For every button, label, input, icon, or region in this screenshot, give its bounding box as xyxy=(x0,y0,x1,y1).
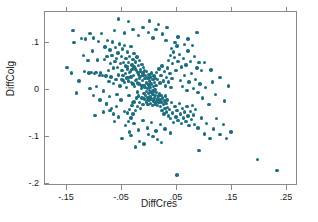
data-point xyxy=(71,29,74,32)
data-point xyxy=(197,149,200,152)
data-point xyxy=(164,84,167,87)
data-point xyxy=(160,64,163,67)
data-point xyxy=(218,133,221,136)
data-point xyxy=(136,90,139,93)
data-point xyxy=(123,31,126,34)
data-point xyxy=(170,101,173,104)
data-point xyxy=(201,96,204,99)
data-point xyxy=(173,105,176,108)
data-point xyxy=(129,134,132,137)
data-point xyxy=(113,29,116,32)
x-tick-mark xyxy=(121,185,122,190)
data-point xyxy=(170,77,173,80)
data-point xyxy=(127,120,130,123)
y-tick-mark xyxy=(44,183,49,184)
data-point xyxy=(119,98,122,101)
data-point xyxy=(139,107,142,110)
data-point xyxy=(136,81,139,84)
data-point xyxy=(147,133,150,136)
y-tick-mark xyxy=(44,42,49,43)
data-point xyxy=(227,84,230,87)
data-point xyxy=(83,70,86,73)
data-point xyxy=(209,68,212,71)
data-point xyxy=(92,36,95,39)
data-point xyxy=(103,45,106,48)
data-point xyxy=(93,114,96,117)
data-point xyxy=(150,121,153,124)
data-point xyxy=(173,41,176,44)
data-point xyxy=(191,44,194,47)
data-point xyxy=(142,142,145,145)
data-point xyxy=(154,129,157,132)
data-point xyxy=(166,66,169,69)
data-point xyxy=(191,104,194,107)
data-point xyxy=(131,28,134,31)
data-point xyxy=(196,91,199,94)
data-point xyxy=(215,117,218,120)
data-point xyxy=(218,76,221,79)
data-point xyxy=(175,109,178,112)
data-point xyxy=(140,96,143,99)
data-point xyxy=(180,122,183,125)
data-point xyxy=(161,32,164,35)
data-point xyxy=(174,69,177,72)
data-point xyxy=(179,79,182,82)
data-point xyxy=(103,58,106,61)
data-point xyxy=(109,75,112,78)
data-point xyxy=(123,81,126,84)
data-point xyxy=(127,20,130,23)
data-point xyxy=(186,114,189,117)
data-point xyxy=(113,60,116,63)
data-point xyxy=(205,122,208,125)
data-point xyxy=(181,85,184,88)
data-point xyxy=(194,108,197,111)
data-point xyxy=(115,105,118,108)
data-point xyxy=(112,82,115,85)
data-point xyxy=(115,57,118,60)
data-point xyxy=(185,89,188,92)
data-point xyxy=(187,80,190,83)
data-point xyxy=(141,119,144,122)
data-point xyxy=(212,127,215,130)
data-point xyxy=(154,28,157,31)
data-point xyxy=(163,127,166,130)
data-point xyxy=(117,73,120,76)
data-point xyxy=(169,86,172,89)
data-point xyxy=(151,36,154,39)
data-point xyxy=(175,173,178,176)
data-point xyxy=(168,72,171,75)
y-tick-label: 0 xyxy=(14,84,39,94)
data-point xyxy=(125,86,128,89)
y-tick-label: .1 xyxy=(14,37,39,47)
data-point xyxy=(116,51,119,54)
data-point xyxy=(184,120,187,123)
data-point xyxy=(178,102,181,105)
data-point xyxy=(126,50,129,53)
data-point xyxy=(195,31,198,34)
data-point xyxy=(172,50,175,53)
data-point xyxy=(112,112,115,115)
data-point xyxy=(104,74,107,77)
data-point xyxy=(70,71,73,74)
data-point xyxy=(207,103,210,106)
data-point xyxy=(106,39,109,42)
x-tick-mark xyxy=(286,185,287,190)
data-points-layer xyxy=(45,12,296,184)
x-tick-mark-top xyxy=(286,7,287,11)
x-tick-mark xyxy=(66,185,67,190)
data-point xyxy=(88,32,91,35)
data-point xyxy=(195,66,198,69)
data-point xyxy=(225,137,228,140)
data-point xyxy=(160,141,163,144)
data-point xyxy=(134,145,137,148)
data-point xyxy=(132,100,135,103)
data-point xyxy=(184,63,187,66)
data-point xyxy=(121,47,124,50)
data-point xyxy=(155,71,158,74)
data-point xyxy=(204,86,207,89)
data-point xyxy=(72,41,75,44)
data-point xyxy=(84,37,87,40)
data-point xyxy=(120,137,123,140)
data-point xyxy=(169,131,172,134)
data-point xyxy=(159,123,162,126)
